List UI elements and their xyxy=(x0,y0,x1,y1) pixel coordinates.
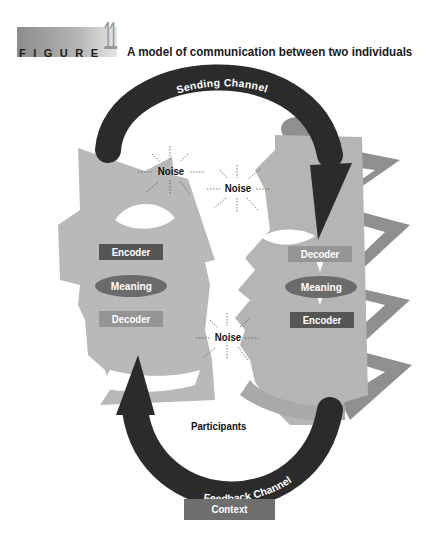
left-encoder-box: Encoder xyxy=(99,244,163,260)
right-encoder-box: Encoder xyxy=(290,312,354,328)
noise-label-1: Noise xyxy=(158,165,184,177)
right-decoder-box: Decoder xyxy=(288,246,352,262)
noise-label-2: Noise xyxy=(225,182,251,194)
right-meaning-oval: Meaning xyxy=(285,276,357,298)
noise-label-3: Noise xyxy=(215,331,241,343)
context-box: Context xyxy=(184,499,275,520)
left-meaning-oval: Meaning xyxy=(95,275,167,297)
left-decoder-box: Decoder xyxy=(99,311,163,327)
communication-diagram: Sending Channel Feedback Channel xyxy=(0,0,447,545)
participants-label: Participants xyxy=(191,420,246,432)
